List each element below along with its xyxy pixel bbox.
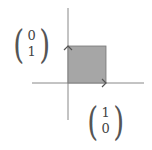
left-paren: ( xyxy=(87,101,98,141)
unit-square xyxy=(68,46,106,83)
right-paren: ) xyxy=(39,24,50,64)
vector-y-bottom: 1 xyxy=(28,44,36,60)
vector-label-x: ( 1 0 ) xyxy=(85,101,127,141)
vector-x-bottom: 0 xyxy=(102,121,110,137)
vector-label-y: ( 0 1 ) xyxy=(11,24,53,64)
vector-x-top: 1 xyxy=(102,105,110,121)
right-paren: ) xyxy=(113,101,124,141)
left-paren: ( xyxy=(13,24,24,64)
vector-y-top: 0 xyxy=(28,28,36,44)
